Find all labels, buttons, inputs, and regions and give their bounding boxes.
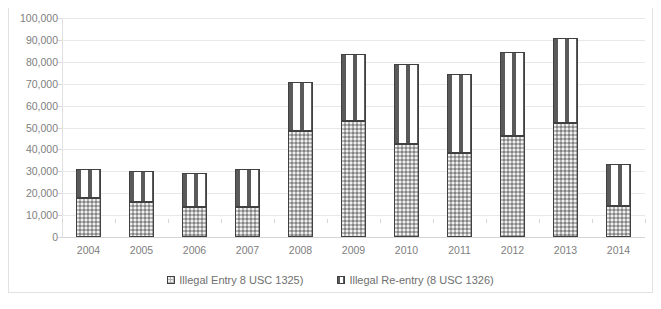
x-tick-mark	[62, 219, 63, 223]
bar-segment-reentry[interactable]	[129, 171, 154, 202]
bar-group[interactable]	[129, 18, 154, 237]
bar-group[interactable]	[182, 18, 207, 237]
x-tick-mark	[221, 219, 222, 223]
chart-legend: Illegal Entry 8 USC 1325) Illegal Re-ent…	[0, 274, 661, 286]
x-tick-label: 2009	[327, 244, 380, 256]
chart-container: 100,00090,00080,00070,00060,00050,00040,…	[0, 0, 661, 309]
y-tick-mark	[58, 149, 62, 150]
x-tick-mark	[645, 219, 646, 223]
bar-group[interactable]	[394, 18, 419, 237]
y-tick-label: 60,000	[0, 101, 58, 111]
y-tick-label: 50,000	[0, 123, 58, 133]
bar-group[interactable]	[288, 18, 313, 237]
y-tick-label: 10,000	[0, 210, 58, 220]
y-tick-label: 90,000	[0, 35, 58, 45]
bar-segment-entry[interactable]	[341, 121, 366, 237]
x-tick-mark	[274, 219, 275, 223]
y-tick-mark	[58, 40, 62, 41]
y-tick-mark	[58, 237, 62, 238]
bar-group[interactable]	[341, 18, 366, 237]
bar-group[interactable]	[235, 18, 260, 237]
bar-group[interactable]	[606, 18, 631, 237]
x-tick-mark	[592, 219, 593, 223]
y-tick-mark	[58, 128, 62, 129]
bar-segment-reentry[interactable]	[606, 164, 631, 207]
x-axis-line	[62, 237, 645, 238]
x-tick-mark	[168, 219, 169, 223]
bar-segment-entry[interactable]	[394, 144, 419, 237]
bar-segment-entry[interactable]	[76, 198, 101, 237]
bar-group[interactable]	[76, 18, 101, 237]
y-tick-label: 70,000	[0, 79, 58, 89]
bar-segment-entry[interactable]	[447, 153, 472, 237]
bar-segment-entry[interactable]	[288, 131, 313, 237]
bar-segment-entry[interactable]	[606, 206, 631, 237]
x-tick-mark	[115, 219, 116, 223]
x-tick-mark	[539, 219, 540, 223]
y-tick-label: 80,000	[0, 57, 58, 67]
x-tick-mark	[433, 219, 434, 223]
bar-segment-reentry[interactable]	[394, 64, 419, 144]
legend-item-reentry[interactable]: Illegal Re-entry (8 USC 1326)	[337, 274, 493, 286]
bars-layer	[62, 18, 645, 237]
legend-label-reentry: Illegal Re-entry (8 USC 1326)	[349, 274, 493, 286]
bar-segment-reentry[interactable]	[235, 169, 260, 207]
x-tick-label: 2013	[539, 244, 592, 256]
x-tick-label: 2012	[486, 244, 539, 256]
y-tick-mark	[58, 18, 62, 19]
bar-segment-entry[interactable]	[235, 207, 260, 237]
legend-swatch-icon-reentry	[337, 276, 345, 284]
y-tick-mark	[58, 106, 62, 107]
legend-label-entry: Illegal Entry 8 USC 1325)	[179, 274, 303, 286]
bar-segment-reentry[interactable]	[76, 169, 101, 197]
y-tick-mark	[58, 171, 62, 172]
bar-segment-entry[interactable]	[129, 202, 154, 237]
bar-segment-reentry[interactable]	[182, 173, 207, 207]
x-tick-label: 2006	[168, 244, 221, 256]
x-tick-label: 2007	[221, 244, 274, 256]
y-tick-label: 30,000	[0, 166, 58, 176]
bar-group[interactable]	[553, 18, 578, 237]
y-tick-label: 100,000	[0, 13, 58, 23]
x-tick-label: 2014	[592, 244, 645, 256]
y-tick-mark	[58, 62, 62, 63]
y-tick-label: 0	[0, 232, 58, 242]
x-tick-label: 2011	[433, 244, 486, 256]
bar-segment-entry[interactable]	[500, 136, 525, 237]
y-tick-mark	[58, 84, 62, 85]
x-tick-mark	[380, 219, 381, 223]
x-tick-label: 2004	[62, 244, 115, 256]
bar-segment-reentry[interactable]	[500, 52, 525, 136]
y-tick-label: 40,000	[0, 144, 58, 154]
plot-area	[62, 18, 645, 237]
x-tick-label: 2005	[115, 244, 168, 256]
bar-segment-reentry[interactable]	[553, 38, 578, 123]
legend-swatch-icon-entry	[167, 276, 175, 284]
bar-segment-entry[interactable]	[182, 207, 207, 237]
y-tick-mark	[58, 215, 62, 216]
x-tick-mark	[327, 219, 328, 223]
y-tick-label: 20,000	[0, 188, 58, 198]
bar-segment-entry[interactable]	[553, 123, 578, 237]
bar-segment-reentry[interactable]	[288, 82, 313, 131]
bar-group[interactable]	[447, 18, 472, 237]
legend-item-entry[interactable]: Illegal Entry 8 USC 1325)	[167, 274, 303, 286]
bar-segment-reentry[interactable]	[341, 54, 366, 121]
bar-segment-reentry[interactable]	[447, 74, 472, 153]
y-tick-mark	[58, 193, 62, 194]
x-tick-mark	[486, 219, 487, 223]
x-tick-label: 2008	[274, 244, 327, 256]
x-tick-label: 2010	[380, 244, 433, 256]
bar-group[interactable]	[500, 18, 525, 237]
